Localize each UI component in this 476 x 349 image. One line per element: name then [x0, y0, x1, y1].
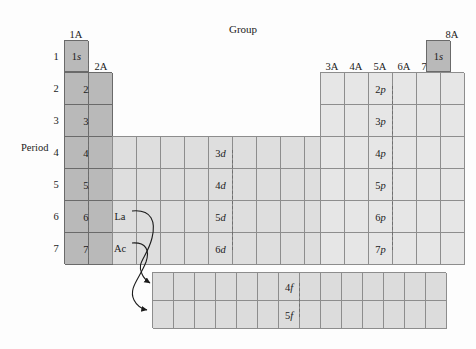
cell-4s-a[interactable]: 4s [65, 137, 89, 169]
cell-2s-a[interactable]: 2s [65, 73, 89, 105]
cell-p-r5-c2[interactable] [345, 201, 369, 233]
cell-d-r3-c6[interactable] [233, 201, 257, 233]
cell-p-r3-c5[interactable] [417, 137, 441, 169]
cell-d-r3-c4[interactable] [185, 201, 209, 233]
cell-d-r1-c6[interactable] [233, 137, 257, 169]
cell-p-r1-c6[interactable] [441, 73, 465, 105]
cell-p-r1-c2[interactable] [345, 73, 369, 105]
cell-p-r3-c3[interactable]: 4p [369, 137, 393, 169]
cell-p-r5-c6[interactable] [441, 201, 465, 233]
cell-d-r4-c2[interactable] [137, 233, 161, 265]
cell-p-r2-c1[interactable] [321, 105, 345, 137]
cell-f-r2-c10[interactable] [342, 301, 363, 329]
cell-d-r2-c4[interactable] [185, 169, 209, 201]
cell-f-r1-c12[interactable] [384, 273, 405, 301]
cell-d-r3-c7[interactable] [257, 201, 281, 233]
cell-p-r3-c6[interactable] [441, 137, 465, 169]
cell-f-r2-c1[interactable] [153, 301, 174, 329]
cell-p-r3-c4[interactable] [393, 137, 417, 169]
cell-f-r2-c3[interactable] [195, 301, 216, 329]
cell-f-r1-c6[interactable] [258, 273, 279, 301]
cell-d-r1-c1[interactable] [113, 137, 137, 169]
cell-d-r1-c7[interactable] [257, 137, 281, 169]
cell-p-r5-c5[interactable] [417, 201, 441, 233]
cell-p-r5-c1[interactable] [321, 201, 345, 233]
cell-p-r1-c1[interactable] [321, 73, 345, 105]
cell-p-r4-c5[interactable] [417, 169, 441, 201]
cell-d-r4-c3[interactable] [161, 233, 185, 265]
cell-d-r3-c5[interactable]: 5d [209, 201, 233, 233]
cell-p-r1-c5[interactable] [417, 73, 441, 105]
cell-1s[interactable]: 1s [65, 41, 89, 72]
cell-p-r2-c4[interactable] [393, 105, 417, 137]
cell-p-r5-c4[interactable] [393, 201, 417, 233]
cell-d-r1-c5[interactable]: 3d [209, 137, 233, 169]
cell-f-r2-c7[interactable]: 5f [279, 301, 300, 329]
cell-p-r4-c6[interactable] [441, 169, 465, 201]
cell-p-r2-c3[interactable]: 3p [369, 105, 393, 137]
cell-p-r4-c4[interactable] [393, 169, 417, 201]
cell-p-r4-c2[interactable] [345, 169, 369, 201]
cell-f-r1-c11[interactable] [363, 273, 384, 301]
cell-f-r1-c5[interactable] [237, 273, 258, 301]
cell-f-r1-c14[interactable] [426, 273, 447, 301]
cell-f-r1-c13[interactable] [405, 273, 426, 301]
cell-p-r2-c5[interactable] [417, 105, 441, 137]
cell-6s-a[interactable]: 6s [65, 201, 89, 233]
cell-f-r2-c8[interactable] [300, 301, 321, 329]
cell-p-r2-c6[interactable] [441, 105, 465, 137]
cell-d-r3-c8[interactable] [281, 201, 305, 233]
cell-p-r3-c1[interactable] [321, 137, 345, 169]
cell-p-r6-c4[interactable] [393, 233, 417, 265]
cell-d-r2-c2[interactable] [137, 169, 161, 201]
cell-5s-b[interactable] [89, 169, 113, 201]
cell-p-r4-c1[interactable] [321, 169, 345, 201]
cell-p-r5-c3[interactable]: 6p [369, 201, 393, 233]
cell-d-r1-c8[interactable] [281, 137, 305, 169]
cell-f-r2-c2[interactable] [174, 301, 195, 329]
cell-f-r1-c9[interactable] [321, 273, 342, 301]
cell-d-r4-c4[interactable] [185, 233, 209, 265]
cell-d-r2-c3[interactable] [161, 169, 185, 201]
cell-d-r2-c6[interactable] [233, 169, 257, 201]
cell-3s-a[interactable]: 3s [65, 105, 89, 137]
cell-p-r6-c3[interactable]: 7p [369, 233, 393, 265]
cell-p-r1-c3[interactable]: 2p [369, 73, 393, 105]
cell-d-r4-c8[interactable] [281, 233, 305, 265]
cell-6s-b[interactable] [89, 201, 113, 233]
cell-d-r3-c2[interactable] [137, 201, 161, 233]
cell-7s-a[interactable]: 7s [65, 233, 89, 265]
cell-p-r2-c2[interactable] [345, 105, 369, 137]
cell-p-r6-c1[interactable] [321, 233, 345, 265]
cell-f-r2-c14[interactable] [426, 301, 447, 329]
cell-f-r2-c6[interactable] [258, 301, 279, 329]
cell-p-r6-c2[interactable] [345, 233, 369, 265]
cell-1s-helium[interactable]: 1s [427, 41, 451, 72]
cell-d-r2-c5[interactable]: 4d [209, 169, 233, 201]
cell-f-r1-c2[interactable] [174, 273, 195, 301]
cell-f-r2-c9[interactable] [321, 301, 342, 329]
cell-f-r2-c4[interactable] [216, 301, 237, 329]
cell-7s-b[interactable] [89, 233, 113, 265]
cell-p-r6-c6[interactable] [441, 233, 465, 265]
cell-f-r1-c1[interactable] [153, 273, 174, 301]
cell-p-r6-c5[interactable] [417, 233, 441, 265]
cell-2s-b[interactable] [89, 73, 113, 105]
cell-f-r2-c11[interactable] [363, 301, 384, 329]
cell-3s-b[interactable] [89, 105, 113, 137]
cell-f-r2-c13[interactable] [405, 301, 426, 329]
cell-4s-b[interactable] [89, 137, 113, 169]
cell-d-r4-c5[interactable]: 6d [209, 233, 233, 265]
cell-5s-a[interactable]: 5s [65, 169, 89, 201]
cell-p-r3-c2[interactable] [345, 137, 369, 169]
cell-f-r2-c12[interactable] [384, 301, 405, 329]
cell-d-r3-c3[interactable] [161, 201, 185, 233]
cell-f-r1-c7[interactable]: 4f [279, 273, 300, 301]
cell-d-r4-c7[interactable] [257, 233, 281, 265]
cell-d-r1-c2[interactable] [137, 137, 161, 169]
cell-f-r1-c4[interactable] [216, 273, 237, 301]
cell-f-r1-c3[interactable] [195, 273, 216, 301]
cell-d-r1-c3[interactable] [161, 137, 185, 169]
cell-d-r2-c8[interactable] [281, 169, 305, 201]
cell-p-r4-c3[interactable]: 5p [369, 169, 393, 201]
